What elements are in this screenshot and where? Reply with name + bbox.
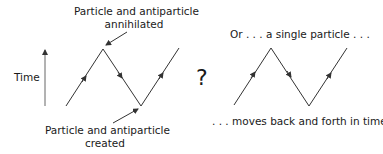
left-worldline: [66, 48, 179, 106]
created-pointer-arrow: [113, 109, 138, 123]
right-seg1-arrow-icon: [251, 72, 255, 78]
left-seg3-arrow-icon: [159, 73, 163, 79]
diagram-canvas: [0, 0, 383, 154]
left-seg1-arrow-icon: [82, 76, 86, 82]
annihilated-pointer-arrow: [106, 32, 127, 45]
left-seg2-arrow-icon: [118, 72, 122, 78]
right-seg3-arrow-icon: [327, 73, 331, 79]
